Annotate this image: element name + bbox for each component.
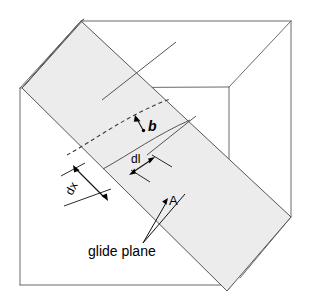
dx-dimension-line <box>76 169 104 197</box>
dx-dimension-group: dx <box>61 163 111 206</box>
cube-edge-receding-top-right <box>229 21 291 87</box>
diagram-canvas: b dl dx A <box>0 0 310 304</box>
dl-label: dl <box>131 152 140 166</box>
dx-label: dx <box>62 180 80 198</box>
glide-plane-label: glide plane <box>88 243 156 259</box>
burgers-vector-label: b <box>148 118 157 134</box>
burgers-vector-origin-dot <box>142 129 145 132</box>
glide-plane-figure: b dl dx A <box>0 0 310 304</box>
slab-face-main <box>22 21 291 291</box>
glide-slab <box>22 19 291 291</box>
dx-arrowhead-lower <box>101 193 108 201</box>
area-label: A <box>169 193 178 208</box>
